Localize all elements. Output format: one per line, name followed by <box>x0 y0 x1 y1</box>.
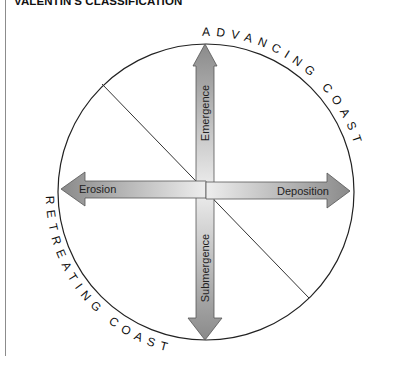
label-deposition: Deposition <box>277 185 329 197</box>
arrow-erosion: Erosion <box>61 172 206 206</box>
label-erosion: Erosion <box>79 183 116 195</box>
arrow-emergence: Emergence <box>193 44 217 190</box>
label-advancing-coast: ADVANCING COAST <box>202 25 367 150</box>
arrow-submergence: Submergence <box>188 190 222 340</box>
label-emergence: Emergence <box>199 85 211 141</box>
arrow-deposition: Deposition <box>206 173 350 208</box>
label-submergence: Submergence <box>199 234 211 303</box>
classification-diagram: Emergence Submergence Erosion Deposition… <box>0 0 393 366</box>
